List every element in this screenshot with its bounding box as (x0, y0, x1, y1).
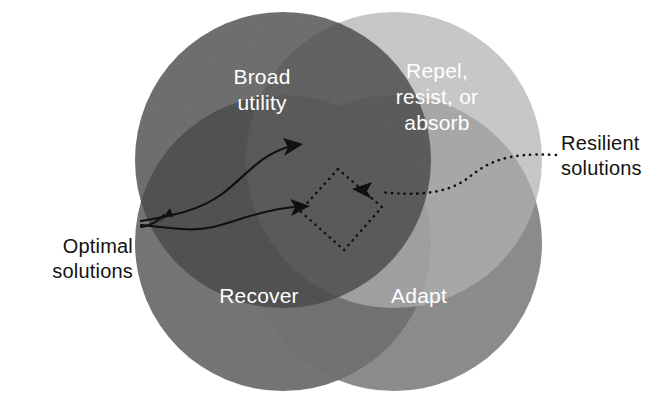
label-broad-utility-line1: Broad (233, 65, 290, 88)
label-repel-line3: absorb (404, 111, 469, 134)
label-recover: Recover (219, 284, 299, 307)
callout-optimal-solutions-line2: solutions (52, 260, 133, 282)
label-repel-line2: resist, or (396, 85, 479, 108)
callout-resilient-solutions-line1: Resilient (561, 132, 640, 154)
callout-optimal-solutions-line1: Optimal (63, 235, 133, 257)
callout-resilient-solutions-line2: solutions (561, 157, 642, 179)
label-repel-line1: Repel, (406, 59, 468, 82)
label-adapt: Adapt (391, 284, 447, 307)
circle-broad-utility (135, 12, 431, 308)
label-broad-utility-line2: utility (237, 91, 287, 114)
figure-canvas: Broad utility Repel, resist, or absorb R… (0, 0, 664, 400)
venn-diagram: Broad utility Repel, resist, or absorb R… (0, 0, 664, 400)
